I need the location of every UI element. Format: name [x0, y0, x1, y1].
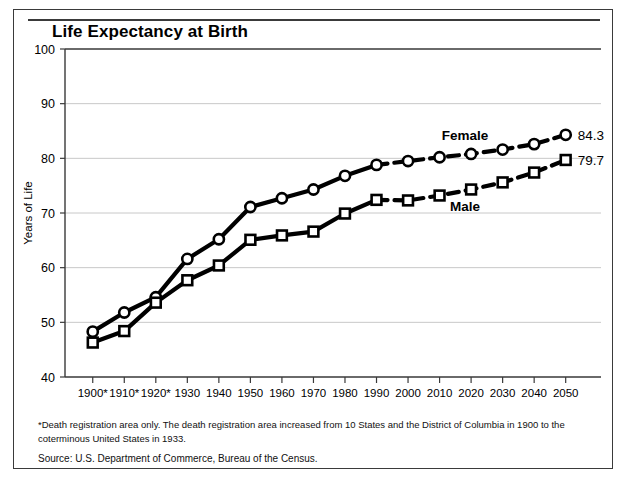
data-point-male-1990 [372, 195, 382, 205]
data-point-female-1990 [371, 160, 381, 170]
x-tick-label: 1940 [206, 387, 232, 399]
y-tick-label: 40 [41, 371, 55, 385]
data-point-male-1930 [182, 275, 192, 285]
line-chart-svg: 405060708090100Years of Life 1900*1910*1… [14, 10, 614, 410]
y-tick-label: 50 [41, 316, 55, 330]
x-tick-label: 2000 [395, 387, 421, 399]
series-group [88, 130, 571, 348]
data-point-female-2040 [529, 139, 539, 149]
data-point-female-1930 [182, 254, 192, 264]
data-point-male-1950 [245, 235, 255, 245]
data-point-female-1900 [88, 327, 98, 337]
y-tick-label: 80 [41, 152, 55, 166]
x-tick-label: 2040 [521, 387, 547, 399]
data-point-female-2050 [561, 130, 571, 140]
x-tick-label: 1910* [109, 387, 140, 399]
x-tick-label: 2020 [458, 387, 484, 399]
x-tick-label: 1960 [269, 387, 295, 399]
data-point-male-1980 [340, 209, 350, 219]
end-value-label-male: 79.7 [578, 153, 604, 168]
data-point-male-2000 [403, 196, 413, 206]
x-tick-label: 1930 [175, 387, 201, 399]
series-line-female [93, 165, 377, 332]
data-point-male-1940 [214, 261, 224, 271]
x-tick-label: 2030 [490, 387, 516, 399]
x-tick-label: 1900* [78, 387, 109, 399]
data-point-male-1910 [119, 326, 129, 336]
x-tick-label: 1970 [301, 387, 327, 399]
data-point-female-1950 [245, 202, 255, 212]
x-tick-label: 1990 [364, 387, 390, 399]
source-text: Source: U.S. Department of Commerce, Bur… [38, 453, 590, 464]
y-tick-label: 100 [34, 43, 55, 57]
x-tick-label: 1980 [332, 387, 358, 399]
y-tick-label: 60 [41, 261, 55, 275]
data-point-female-1960 [277, 193, 287, 203]
series-label-male: Male [450, 199, 481, 214]
y-tick-label: 70 [41, 207, 55, 221]
data-point-female-2010 [434, 152, 444, 162]
y-tick-label: 90 [41, 97, 55, 111]
data-point-male-1900 [88, 338, 98, 348]
data-point-female-1970 [308, 184, 318, 194]
data-point-male-2050 [561, 155, 571, 165]
footnote-text: *Death registration area only. The death… [38, 418, 590, 446]
x-tick-label: 1950 [238, 387, 264, 399]
x-axis-group: 1900*1910*1920*1930194019501960197019801… [78, 377, 579, 399]
data-point-female-2000 [403, 156, 413, 166]
data-point-female-2030 [498, 144, 508, 154]
series-label-female: Female [442, 128, 489, 143]
x-tick-label: 1920* [141, 387, 172, 399]
annotations-group: 84.379.7FemaleMale [442, 128, 604, 215]
x-tick-label: 2010 [427, 387, 453, 399]
gridlines-group [65, 49, 601, 377]
data-point-female-1980 [340, 171, 350, 181]
x-tick-label: 2050 [553, 387, 579, 399]
data-point-male-2010 [435, 191, 445, 201]
data-point-male-2020 [466, 185, 476, 195]
plot-area: 405060708090100Years of Life 1900*1910*1… [14, 10, 614, 410]
data-point-male-2040 [529, 168, 539, 178]
data-point-female-2020 [466, 149, 476, 159]
data-point-female-1910 [119, 307, 129, 317]
data-point-male-1920 [151, 298, 161, 308]
y-axis-label: Years of Life [22, 181, 34, 245]
chart-figure: Life Expectancy at Birth 405060708090100… [13, 9, 613, 469]
end-value-label-female: 84.3 [578, 128, 604, 143]
y-axis-group: 405060708090100Years of Life [22, 43, 65, 385]
data-point-male-1970 [309, 227, 319, 237]
data-point-male-2030 [498, 177, 508, 187]
data-point-female-1940 [214, 234, 224, 244]
data-point-male-1960 [277, 231, 287, 241]
